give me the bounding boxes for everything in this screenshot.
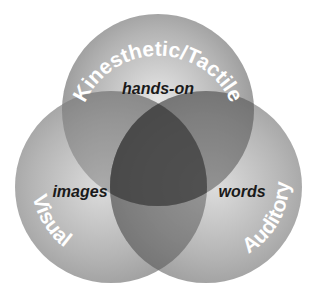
label-images: images [52,183,107,200]
venn-diagram: Kinesthetic/Tactile Visual Auditory hand… [0,0,315,296]
label-hands-on: hands-on [122,80,194,97]
venn-svg: Kinesthetic/Tactile Visual Auditory hand… [0,0,315,296]
label-words: words [218,183,265,200]
